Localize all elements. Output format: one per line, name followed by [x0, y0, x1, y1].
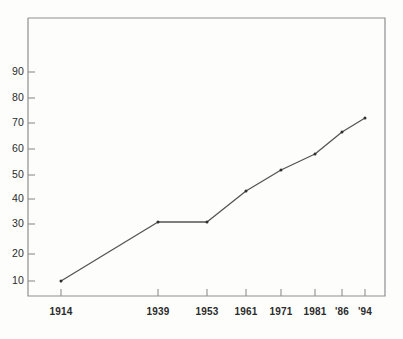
data-point — [245, 190, 248, 193]
y-tick-label-20: 20 — [2, 247, 24, 259]
data-point — [341, 131, 344, 134]
x-axis-ticks — [61, 289, 365, 296]
y-tick-label-80: 80 — [2, 91, 24, 103]
data-point — [314, 153, 317, 156]
y-tick-label-90: 90 — [2, 65, 24, 77]
data-point — [364, 117, 367, 120]
y-tick-label-10: 10 — [2, 274, 24, 286]
y-tick-label-70: 70 — [2, 116, 24, 128]
axis-frame — [28, 18, 385, 296]
data-series-line — [61, 118, 365, 281]
line-chart: 90 80 70 60 50 40 30 20 10 1914 1939 195… — [0, 0, 403, 339]
data-point-markers — [60, 117, 367, 283]
y-tick-label-30: 30 — [2, 217, 24, 229]
plot-area — [0, 0, 403, 339]
y-tick-label-50: 50 — [2, 168, 24, 180]
data-point — [280, 169, 283, 172]
y-tick-label-40: 40 — [2, 192, 24, 204]
data-point — [157, 221, 160, 224]
x-tick-label-1953: 1953 — [185, 306, 229, 317]
y-tick-label-60: 60 — [2, 142, 24, 154]
x-tick-label-94: '94 — [346, 306, 384, 317]
data-point — [206, 221, 209, 224]
x-tick-label-1914: 1914 — [39, 306, 83, 317]
x-tick-label-1939: 1939 — [136, 306, 180, 317]
y-axis-ticks — [28, 72, 35, 281]
data-point — [60, 280, 63, 283]
